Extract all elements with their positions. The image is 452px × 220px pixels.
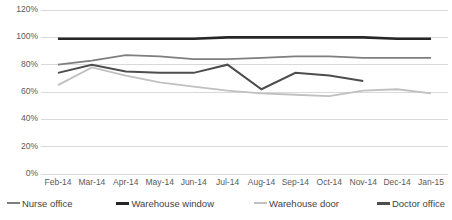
x-tick-label: Apr-14: [113, 177, 139, 187]
series-line-doctor-office: [58, 65, 363, 90]
x-tick-label: Jul-14: [216, 177, 239, 187]
y-tick-label: 0%: [2, 169, 38, 178]
legend-swatch-icon: [116, 202, 129, 205]
series-line-warehouse-window: [58, 37, 431, 38]
y-tick-label: 40%: [2, 114, 38, 123]
y-tick-label: 60%: [2, 87, 38, 96]
x-tick-label: Jan-15: [418, 177, 444, 187]
chart-legend: Nurse office Warehouse window Warehouse …: [0, 196, 452, 210]
y-tick-label: 100%: [2, 32, 38, 41]
x-tick-label: Dec-14: [383, 177, 410, 187]
x-tick-label: Oct-14: [317, 177, 343, 187]
x-tick-label: May-14: [146, 177, 174, 187]
y-tick-label: 80%: [2, 60, 38, 69]
legend-item-label: Warehouse window: [131, 198, 214, 209]
plot-area: 0%20%40%60%80%100%120%: [0, 0, 452, 180]
x-tick-label: Aug-14: [248, 177, 275, 187]
legend-item-label: Warehouse door: [269, 198, 339, 209]
legend-item-nurse-office[interactable]: Nurse office: [7, 198, 73, 209]
x-tick-label: Jun-14: [181, 177, 207, 187]
series-line-nurse-office: [58, 55, 431, 65]
clipped-caption-row: [0, 212, 452, 220]
plot-svg: [0, 0, 452, 180]
line-chart: 0%20%40%60%80%100%120% Feb-14Mar-14Apr-1…: [0, 0, 452, 220]
legend-item-label: Nurse office: [22, 198, 73, 209]
x-axis: Feb-14Mar-14Apr-14May-14Jun-14Jul-14Aug-…: [41, 177, 452, 193]
legend-item-warehouse-door[interactable]: Warehouse door: [254, 198, 339, 209]
series-lines: [58, 37, 431, 96]
legend-item-doctor-office[interactable]: Doctor office: [377, 198, 445, 209]
legend-item-label: Doctor office: [392, 198, 445, 209]
x-tick-label: Mar-14: [78, 177, 105, 187]
legend-swatch-icon: [7, 202, 20, 204]
legend-swatch-icon: [377, 202, 390, 205]
y-axis: 0%20%40%60%80%100%120%: [0, 0, 38, 180]
y-tick-label: 120%: [2, 5, 38, 14]
legend-item-warehouse-window[interactable]: Warehouse window: [116, 198, 214, 209]
x-tick-label: Nov-14: [350, 177, 377, 187]
y-tick-label: 20%: [2, 142, 38, 151]
legend-swatch-icon: [254, 202, 267, 204]
x-tick-label: Sep-14: [282, 177, 309, 187]
x-tick-label: Feb-14: [44, 177, 71, 187]
